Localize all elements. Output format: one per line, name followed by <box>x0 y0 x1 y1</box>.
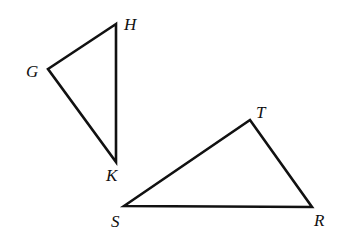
vertex-label-s: S <box>111 212 120 231</box>
triangle-ghk: G H K <box>26 15 138 185</box>
vertex-label-r: R <box>313 211 325 230</box>
triangle-ghk-outline <box>48 24 116 162</box>
triangle-str: S T R <box>111 103 325 231</box>
triangle-str-outline <box>124 120 312 207</box>
vertex-label-t: T <box>256 103 267 122</box>
vertex-label-h: H <box>123 15 138 34</box>
geometry-figure: G H K S T R <box>0 0 338 241</box>
vertex-label-g: G <box>26 62 38 81</box>
vertex-label-k: K <box>105 166 119 185</box>
